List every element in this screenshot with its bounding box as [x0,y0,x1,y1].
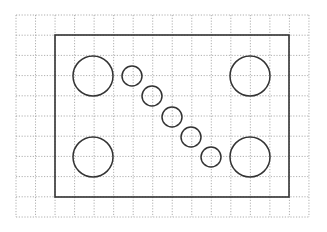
small-circle [181,127,201,147]
grid-diagram [0,0,327,232]
small-circles-group [122,66,221,167]
large-circle [230,56,270,96]
large-circle [73,137,113,177]
large-circle [230,137,270,177]
large-circle [73,56,113,96]
large-circles-group [73,56,270,177]
